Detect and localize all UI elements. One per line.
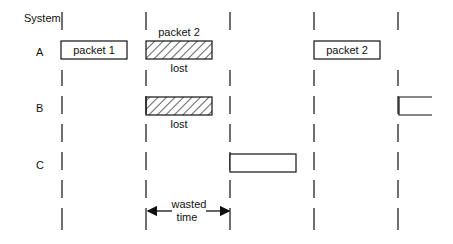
row-label-c: C [36, 159, 44, 171]
wasted-label: wasted [171, 198, 207, 210]
packet-2-retry-label: packet 2 [326, 44, 368, 56]
row-label-b: B [36, 102, 43, 114]
row-label-a: A [36, 46, 44, 58]
packet-b-partial-box [399, 97, 432, 115]
time-label: time [177, 211, 198, 223]
packet-1-label: packet 1 [73, 44, 115, 56]
lost-label-a: lost [170, 62, 187, 74]
packet-c-box [230, 154, 296, 172]
collision-timing-diagram: System A B C packet 1 packet 2 lost pack… [0, 0, 453, 244]
lost-label-b: lost [170, 118, 187, 130]
collided-packet-a [146, 41, 212, 59]
collided-packet-b [146, 97, 212, 115]
packet-2-lost-label: packet 2 [158, 26, 200, 38]
system-header-label: System [24, 12, 61, 24]
